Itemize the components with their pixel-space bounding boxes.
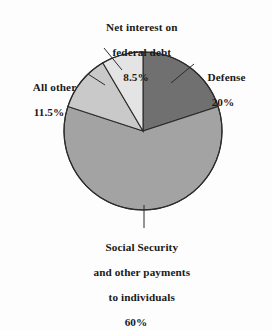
pie-label-social-security-line3: to individuals bbox=[109, 291, 175, 303]
pie-label-social-security-line2: and other payments bbox=[93, 266, 190, 278]
pie-label-defense: Defense 20% bbox=[196, 58, 272, 134]
pie-label-net-interest-line1: Net interest on bbox=[106, 21, 178, 33]
pie-label-social-security: Social Security and other payments to in… bbox=[24, 228, 248, 330]
pie-label-defense-percent: 20% bbox=[196, 96, 250, 109]
pie-label-defense-text: Defense bbox=[208, 71, 246, 83]
pie-label-all-other-text: All other bbox=[33, 81, 76, 93]
pie-label-net-interest-line2: federal debt bbox=[112, 46, 171, 58]
pie-label-social-security-percent: 60% bbox=[24, 316, 248, 329]
pie-label-social-security-line1: Social Security bbox=[105, 241, 178, 253]
pie-label-all-other: All other 11.5% bbox=[6, 68, 92, 144]
pie-label-all-other-percent: 11.5% bbox=[6, 106, 92, 119]
